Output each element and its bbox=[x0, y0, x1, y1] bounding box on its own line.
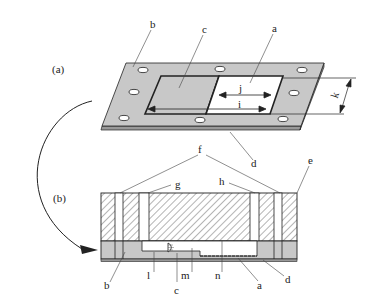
label-a-bottom: a bbox=[257, 279, 262, 291]
label-a-top: a bbox=[272, 22, 277, 34]
label-g: g bbox=[175, 178, 181, 190]
label-c-bottom: c bbox=[174, 284, 179, 296]
label-l: l bbox=[147, 269, 150, 281]
label-k: k bbox=[328, 90, 341, 99]
label-h: h bbox=[219, 175, 225, 187]
label-b-top: b bbox=[150, 18, 156, 30]
label-e: e bbox=[308, 154, 313, 166]
panel-b-label: (b) bbox=[53, 192, 66, 205]
label-c-top: c bbox=[202, 23, 207, 35]
label-m: m bbox=[181, 269, 190, 281]
label-b-bottom: b bbox=[104, 279, 110, 291]
panel-a-label: (a) bbox=[52, 63, 65, 76]
substrate-d bbox=[101, 259, 297, 262]
label-d-top: d bbox=[251, 157, 257, 169]
label-j: j bbox=[238, 82, 242, 94]
cover-block bbox=[101, 193, 297, 241]
label-i: i bbox=[238, 98, 241, 110]
panel-a: (a) j bbox=[52, 18, 356, 169]
plate-edge bbox=[101, 126, 301, 130]
transition-arrow bbox=[37, 101, 98, 254]
label-d-bottom: d bbox=[285, 273, 291, 285]
panel-b: (b) bbox=[53, 143, 313, 296]
device-diagram: (a) j bbox=[0, 0, 369, 308]
label-f: f bbox=[198, 143, 202, 155]
label-n: n bbox=[215, 269, 221, 281]
